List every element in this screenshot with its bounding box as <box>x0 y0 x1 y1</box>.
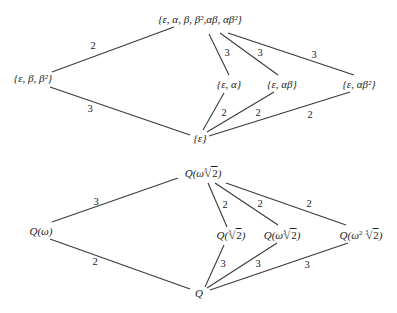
node-field-rationals: Q <box>195 288 203 299</box>
node-field-cuberoot2: Q(3√2) <box>217 229 246 241</box>
field-mid1-suffix: ) <box>242 229 246 241</box>
edge-label-top-left: 2 <box>90 41 95 52</box>
node-group-full: {ε, α, β, β²,αβ, αβ²} <box>158 14 242 25</box>
field-mid3-suffix: ) <box>379 229 383 241</box>
edge-label-top-mid3: 3 <box>311 50 316 61</box>
edge-field-mid2-bottom <box>207 243 277 288</box>
field-mid1-prefix: Q( <box>217 229 229 241</box>
edge-field-label-top-mid2: 2 <box>257 199 262 210</box>
field-mid3-prefix: Q(ω <box>340 229 359 241</box>
cube-root-icon: 3√2 <box>283 229 297 241</box>
edge-label-top-mid1: 3 <box>224 48 229 59</box>
field-mid2-suffix: ) <box>297 229 301 241</box>
edge-field-label-top-left: 3 <box>93 197 98 208</box>
edge-field-label-mid3-bottom: 3 <box>304 260 309 271</box>
edge-label-top-mid2: 3 <box>257 48 262 59</box>
field-mid2-prefix: Q(ω <box>264 229 283 241</box>
edge-top-mid3 <box>228 33 354 75</box>
node-field-omega2-cuberoot2: Q(ω2 3√2) <box>340 229 383 241</box>
field-mid3-power: 2 <box>359 229 363 237</box>
edge-field-label-mid1-bottom: 3 <box>220 259 225 270</box>
edge-field-label-left-bottom: 2 <box>92 257 97 268</box>
edge-label-mid3-bottom: 2 <box>307 110 312 121</box>
edge-label-mid2-bottom: 2 <box>255 108 260 119</box>
edge-field-top-mid3 <box>226 183 346 225</box>
edge-field-label-top-mid3: 2 <box>306 199 311 210</box>
edge-field-top-left <box>52 178 178 222</box>
node-group-beta: {ε, β, β²} <box>14 73 52 84</box>
node-group-alpha: {ε, α} <box>217 79 241 90</box>
node-field-splitting: Q(ω3√2) <box>185 167 222 179</box>
edge-top-left <box>52 27 174 72</box>
edge-label-left-bottom: 3 <box>87 104 92 115</box>
node-group-identity: {ε} <box>193 133 206 144</box>
node-group-alphabeta: {ε, αβ} <box>267 79 297 90</box>
edge-mid3-bottom <box>209 92 350 136</box>
edge-label-mid1-bottom: 2 <box>221 108 226 119</box>
field-top-suffix: ) <box>218 167 222 179</box>
cube-root-icon: 3√2 <box>204 167 218 179</box>
cube-root-icon: 3√2 <box>365 229 379 241</box>
edge-left-bottom <box>50 87 190 135</box>
node-group-alphabeta2: {ε, αβ²} <box>342 79 375 90</box>
lattice-edges <box>0 0 397 313</box>
edge-field-label-top-mid1: 2 <box>222 200 227 211</box>
edge-field-mid3-bottom <box>210 243 348 290</box>
cube-root-icon: 3√2 <box>228 229 242 241</box>
node-field-omega: Q(ω) <box>29 226 52 237</box>
edge-field-left-bottom <box>50 239 190 289</box>
field-top-prefix: Q(ω <box>185 167 204 179</box>
node-field-omega-cuberoot2: Q(ω3√2) <box>264 229 301 241</box>
edge-field-label-mid2-bottom: 3 <box>255 259 260 270</box>
